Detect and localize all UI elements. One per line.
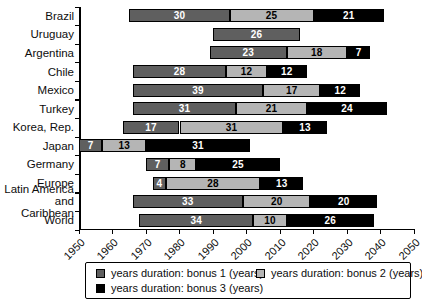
bar-argentina-bonus1: 23 (210, 46, 287, 59)
x-axis-tick-1970 (146, 230, 147, 235)
x-axis-tick-2000 (246, 230, 247, 235)
category-label-world: World (44, 214, 74, 226)
category-label-uruguay: Uruguay (31, 28, 74, 40)
bar-world-bonus1: 34 (139, 214, 253, 227)
legend-item-bonus-1: years duration: bonus 1 (years) (96, 267, 263, 279)
y-axis-tick (75, 25, 80, 26)
x-tick-label-2030: 2030 (329, 236, 355, 262)
y-axis-tick (75, 99, 80, 100)
bar-argentina-bonus2: 18 (287, 46, 347, 59)
bar-turkey-bonus3: 24 (307, 102, 387, 115)
bar-uruguay-bonus1: 26 (213, 28, 300, 41)
y-axis-tick (75, 174, 80, 175)
bar-latin-america-and-caribbean-bonus1: 33 (133, 195, 244, 208)
y-axis-tick (75, 62, 80, 63)
demographic-bonus-chart: 1950196019701980199020002010202020302040… (0, 0, 422, 304)
category-label-korea-rep: Korea, Rep. (13, 121, 74, 133)
y-axis-tick (75, 118, 80, 119)
bar-brazil-bonus1: 30 (129, 9, 230, 22)
y-axis-tick (75, 192, 80, 193)
y-axis-line (79, 7, 81, 230)
bar-brazil-bonus3: 21 (314, 9, 384, 22)
x-tick-label-1980: 1980 (161, 236, 187, 262)
bar-latin-america-and-caribbean-bonus3: 20 (310, 195, 377, 208)
bonus-1-swatch-icon (96, 269, 105, 278)
x-axis-tick-2050 (414, 230, 415, 235)
bonus-3-swatch-icon (96, 284, 105, 293)
x-axis-tick-2010 (280, 230, 281, 235)
y-axis-tick (75, 7, 80, 8)
legend-label-bonus-2: years duration: bonus 2 (years) (271, 267, 422, 279)
x-axis-tick-2040 (380, 230, 381, 235)
x-tick-label-2000: 2000 (228, 236, 254, 262)
bar-latin-america-and-caribbean-bonus2: 20 (243, 195, 310, 208)
bar-korea-rep-bonus1: 17 (123, 121, 180, 134)
x-tick-label-2010: 2010 (262, 236, 288, 262)
bonus-2-swatch-icon (256, 269, 265, 278)
x-tick-label-2050: 2050 (396, 236, 422, 262)
bar-germany-bonus2: 8 (169, 158, 196, 171)
category-label-chile: Chile (48, 65, 74, 77)
bar-mexico-bonus2: 17 (263, 84, 320, 97)
bar-brazil-bonus2: 25 (230, 9, 314, 22)
bar-europe-bonus2: 28 (166, 177, 260, 190)
category-label-japan: Japan (43, 140, 74, 152)
bar-germany-bonus3: 25 (196, 158, 280, 171)
bar-japan-bonus3: 31 (146, 139, 250, 152)
x-axis-tick-1990 (213, 230, 214, 235)
y-axis-tick (75, 155, 80, 156)
x-axis-tick-1950 (79, 230, 80, 235)
bar-mexico-bonus3: 12 (320, 84, 360, 97)
bar-turkey-bonus2: 21 (236, 102, 306, 115)
x-tick-label-2040: 2040 (362, 236, 388, 262)
category-label-turkey: Turkey (39, 103, 74, 115)
x-tick-label-1990: 1990 (195, 236, 221, 262)
category-label-brazil: Brazil (45, 10, 74, 22)
legend: years duration: bonus 1 (years) years du… (85, 262, 411, 299)
x-tick-label-1960: 1960 (94, 236, 120, 262)
y-axis-tick (75, 137, 80, 138)
legend-item-bonus-3: years duration: bonus 3 (years) (96, 282, 263, 294)
y-axis-tick (75, 81, 80, 82)
category-label-mexico: Mexico (38, 84, 74, 96)
bar-europe-bonus3: 13 (260, 177, 304, 190)
category-label-germany: Germany (27, 158, 74, 170)
x-tick-label-2020: 2020 (295, 236, 321, 262)
bar-world-bonus3: 26 (287, 214, 374, 227)
bar-mexico-bonus1: 39 (133, 84, 264, 97)
x-axis-tick-2020 (313, 230, 314, 235)
bar-argentina-bonus3: 7 (347, 46, 370, 59)
bar-japan-bonus2: 13 (102, 139, 146, 152)
y-axis-tick (75, 211, 80, 212)
x-axis-tick-2030 (347, 230, 348, 235)
x-axis-tick-1980 (179, 230, 180, 235)
bar-korea-rep-bonus3: 13 (283, 121, 327, 134)
legend-label-bonus-3: years duration: bonus 3 (years) (111, 282, 263, 294)
bar-turkey-bonus1: 31 (133, 102, 237, 115)
legend-item-bonus-2: years duration: bonus 2 (years) (256, 267, 422, 279)
bar-chile-bonus2: 12 (226, 65, 266, 78)
bar-japan-bonus1: 7 (79, 139, 102, 152)
bar-chile-bonus3: 12 (267, 65, 307, 78)
legend-label-bonus-1: years duration: bonus 1 (years) (111, 267, 263, 279)
category-label-argentina: Argentina (25, 47, 74, 59)
x-tick-label-1970: 1970 (128, 236, 154, 262)
y-axis-tick (75, 44, 80, 45)
bar-europe-bonus1: 4 (153, 177, 166, 190)
bar-korea-rep-bonus2: 31 (180, 121, 284, 134)
x-tick-label-1950: 1950 (61, 236, 87, 262)
bar-chile-bonus1: 28 (133, 65, 227, 78)
bar-germany-bonus1: 7 (146, 158, 169, 171)
x-axis-tick-1960 (112, 230, 113, 235)
bar-world-bonus2: 10 (253, 214, 287, 227)
